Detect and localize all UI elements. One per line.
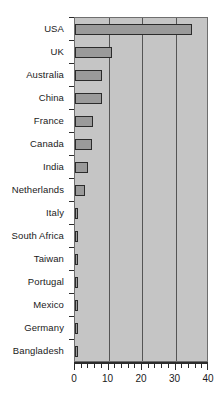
y-axis-label: USA	[0, 24, 64, 34]
bar	[75, 162, 88, 173]
x-axis-tick-label: 20	[135, 373, 146, 384]
y-axis-label: UK	[0, 47, 64, 57]
bar	[75, 346, 78, 357]
x-axis-minor-tick	[195, 364, 196, 368]
x-axis-minor-tick	[121, 364, 122, 368]
x-axis-major-tick	[141, 364, 142, 370]
y-axis-labels: USAUKAustraliaChinaFranceCanadaIndiaNeth…	[0, 17, 68, 362]
x-axis-minor-tick	[154, 364, 155, 368]
x-axis-minor-tick	[81, 364, 82, 368]
x-axis-tick-label: 0	[71, 373, 77, 384]
x-axis-minor-tick	[101, 364, 102, 368]
bar	[75, 300, 78, 311]
bar	[75, 277, 78, 288]
bar	[75, 47, 112, 58]
bar	[75, 70, 102, 81]
x-axis-ticks	[74, 364, 208, 372]
x-axis-major-tick	[207, 364, 208, 370]
x-axis-minor-tick	[134, 364, 135, 368]
x-axis-minor-tick	[87, 364, 88, 368]
y-axis-label: China	[0, 93, 64, 103]
bar	[75, 93, 102, 104]
x-axis-minor-tick	[148, 364, 149, 368]
gridline-30	[176, 18, 177, 361]
bar	[75, 254, 78, 265]
bar	[75, 185, 85, 196]
x-axis-minor-tick	[114, 364, 115, 368]
x-axis-minor-tick	[128, 364, 129, 368]
bar	[75, 139, 92, 150]
bar-chart: USAUKAustraliaChinaFranceCanadaIndiaNeth…	[0, 0, 220, 403]
y-axis-label: Italy	[0, 208, 64, 218]
bar	[75, 24, 192, 35]
x-axis-tick-labels: 010203040	[74, 373, 208, 387]
plot-area	[74, 17, 208, 362]
y-axis-label: Canada	[0, 139, 64, 149]
y-axis-label: France	[0, 116, 64, 126]
y-axis-label: Germany	[0, 323, 64, 333]
bar	[75, 231, 78, 242]
bar	[75, 116, 93, 127]
y-axis-label: India	[0, 162, 64, 172]
y-axis-label: Mexico	[0, 300, 64, 310]
x-axis-major-tick	[74, 364, 75, 370]
bar	[75, 323, 78, 334]
x-axis-tick-label: 40	[202, 373, 213, 384]
y-axis-label: Netherlands	[0, 185, 64, 195]
y-axis-label: Australia	[0, 70, 64, 80]
gridline-20	[142, 18, 143, 361]
x-axis-minor-tick	[94, 364, 95, 368]
y-axis-label: Portugal	[0, 277, 64, 287]
x-axis-major-tick	[175, 364, 176, 370]
y-axis-label: Bangladesh	[0, 346, 64, 356]
y-axis-label: South Africa	[0, 231, 64, 241]
gridline-10	[109, 18, 110, 361]
x-axis-minor-tick	[181, 364, 182, 368]
x-axis-minor-tick	[161, 364, 162, 368]
bar	[75, 208, 78, 219]
y-axis-label: Taiwan	[0, 254, 64, 264]
x-axis-minor-tick	[201, 364, 202, 368]
x-axis-minor-tick	[168, 364, 169, 368]
x-axis-tick-label: 30	[169, 373, 180, 384]
x-axis-major-tick	[108, 364, 109, 370]
x-axis-minor-tick	[188, 364, 189, 368]
x-axis-tick-label: 10	[102, 373, 113, 384]
